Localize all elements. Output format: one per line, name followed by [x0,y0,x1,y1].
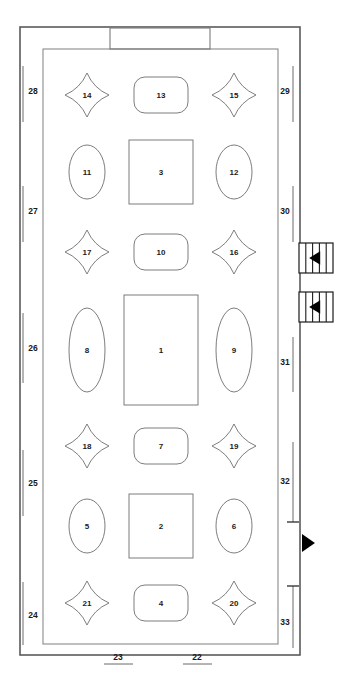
stage-platform [110,28,210,49]
table-label: 15 [230,91,239,100]
dimension-31: 31 [280,337,293,392]
dimension-25: 25 [23,450,38,516]
dimension-29: 29 [280,66,293,122]
floor-plan-canvas: 123456789101112131415161718192021 282726… [0,0,341,699]
table-11[interactable]: 11 [69,145,105,199]
table-1[interactable]: 1 [124,295,198,405]
table-label: 18 [83,442,92,451]
door-lower[interactable] [299,292,333,322]
table-16[interactable]: 16 [212,230,256,274]
table-label: 2 [159,522,164,531]
dimension-label: 29 [280,86,290,96]
door-upper[interactable] [299,243,333,273]
table-label: 11 [83,168,92,177]
table-label: 7 [159,442,164,451]
table-label: 12 [230,168,239,177]
table-label: 10 [157,248,166,257]
table-15[interactable]: 15 [212,73,256,117]
floor-plan-diagram: 123456789101112131415161718192021 282726… [0,0,341,699]
entrance-arrow-icon [302,534,315,552]
table-19[interactable]: 19 [212,424,256,468]
dimension-label: 22 [192,652,202,662]
table-label: 6 [232,522,237,531]
dimension-label: 33 [280,617,290,627]
table-label: 19 [230,442,239,451]
dimension-label: 28 [28,86,38,96]
dimension-23: 23 [104,652,133,664]
table-2[interactable]: 2 [129,494,193,558]
table-label: 14 [83,91,92,100]
table-3[interactable]: 3 [129,140,193,204]
dimension-28: 28 [23,66,38,122]
dimension-label: 26 [28,343,38,353]
dimension-22: 22 [183,652,212,664]
table-17[interactable]: 17 [65,230,109,274]
table-14[interactable]: 14 [65,73,109,117]
table-10[interactable]: 10 [134,234,188,270]
table-label: 20 [230,599,239,608]
dimension-label: 25 [28,478,38,488]
dimension-label: 27 [28,206,38,216]
table-label: 3 [159,168,164,177]
table-5[interactable]: 5 [69,499,105,553]
dimension-label: 31 [280,357,290,367]
table-label: 13 [157,91,166,100]
table-20[interactable]: 20 [212,581,256,625]
table-label: 5 [85,522,90,531]
table-6[interactable]: 6 [216,499,252,553]
table-label: 8 [85,346,90,355]
table-4[interactable]: 4 [134,585,188,621]
table-label: 1 [159,346,164,355]
table-8[interactable]: 8 [69,308,105,392]
table-13[interactable]: 13 [134,77,188,113]
dimension-27: 27 [23,186,38,242]
table-label: 17 [83,248,92,257]
table-label: 4 [159,599,164,608]
dimension-label: 30 [280,206,290,216]
table-label: 16 [230,248,239,257]
table-9[interactable]: 9 [216,308,252,392]
dimension-24: 24 [23,582,38,645]
table-18[interactable]: 18 [65,424,109,468]
dimension-label: 32 [280,476,290,486]
table-7[interactable]: 7 [134,428,188,464]
dimension-32: 32 [280,442,299,522]
doors-layer [299,243,333,322]
dimension-label: 23 [113,652,123,662]
dimension-30: 30 [280,186,293,242]
table-label: 9 [232,346,237,355]
tables-layer: 123456789101112131415161718192021 [65,73,256,625]
markers-layer [302,534,315,552]
dimension-33: 33 [280,586,299,648]
table-label: 21 [83,599,92,608]
table-21[interactable]: 21 [65,581,109,625]
dimension-label: 24 [28,610,38,620]
dimension-26: 26 [23,313,38,383]
table-12[interactable]: 12 [216,145,252,199]
